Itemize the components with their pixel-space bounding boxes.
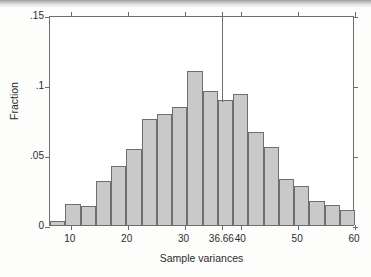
- x-axis-tick-label: 50: [292, 233, 303, 245]
- y-axis-tick-label: .15: [30, 11, 44, 21]
- y-axis-tick-right: [353, 87, 358, 88]
- x-axis-tick-label: 10: [64, 233, 75, 245]
- y-axis-tick-labels: 0.05.1.15: [12, 16, 44, 226]
- x-axis-tick-label: 40: [235, 233, 246, 245]
- x-axis-tick: [71, 225, 72, 230]
- y-axis-tick: [45, 227, 50, 228]
- y-axis-tick-label: .05: [30, 151, 44, 161]
- y-axis-tick-right: [353, 157, 358, 158]
- x-axis-tick: [185, 225, 186, 230]
- y-axis-tick-label: .1: [36, 81, 44, 91]
- x-axis-tick: [241, 225, 242, 230]
- x-axis-tick: [128, 225, 129, 230]
- x-axis-title: Sample variances: [49, 252, 354, 264]
- x-axis-tick: [222, 225, 223, 230]
- x-axis-tick: [298, 225, 299, 230]
- y-axis-tick-label: 0: [38, 221, 44, 231]
- x-axis-tick: [355, 225, 356, 230]
- x-axis-tick-label: 60: [348, 233, 359, 245]
- reference-line: [222, 17, 223, 102]
- x-axis-tick-label: 30: [178, 233, 189, 245]
- scan-artifact-band-fade: [0, 5, 371, 8]
- histogram-figure: Fraction 0.05.1.15 10203036.66405060 Sam…: [0, 0, 371, 277]
- x-axis-tick-top: [355, 12, 356, 17]
- x-axis-tick-label: 20: [121, 233, 132, 245]
- plot-area: [49, 16, 354, 226]
- x-axis-tick-label: 36.66: [209, 233, 234, 245]
- x-axis-tick-labels: 10203036.66405060: [49, 233, 354, 247]
- reference-line-layer: [50, 17, 353, 225]
- y-axis-tick-right: [353, 17, 358, 18]
